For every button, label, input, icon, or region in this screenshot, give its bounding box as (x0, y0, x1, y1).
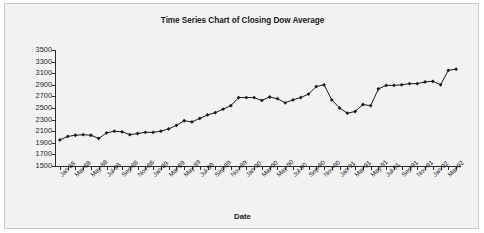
data-point-marker (120, 130, 124, 134)
series-polyline (60, 69, 456, 140)
data-point-marker (291, 98, 295, 102)
data-point-marker (221, 107, 225, 111)
data-point-marker (415, 82, 419, 86)
y-axis-tick (52, 73, 55, 74)
data-point-marker (58, 138, 62, 142)
data-point-marker (392, 83, 396, 87)
data-point-marker (369, 104, 373, 108)
data-point-marker (299, 96, 303, 100)
y-axis-tick-label: 3300 (25, 58, 52, 66)
y-axis-tick (52, 143, 55, 144)
y-axis-tick (52, 120, 55, 121)
data-point-marker (446, 68, 450, 72)
data-point-marker (423, 80, 427, 84)
y-axis-tick-label: 3500 (25, 46, 52, 54)
data-point-marker (384, 83, 388, 87)
data-point-marker (377, 87, 381, 91)
y-axis-tick (52, 50, 55, 51)
data-point-marker (128, 133, 132, 137)
x-axis-title: Date (5, 212, 480, 221)
y-axis-tick-label: 1900 (25, 139, 52, 147)
y-axis-tick (52, 131, 55, 132)
data-point-marker (190, 120, 194, 124)
y-axis-tick-label: 1700 (25, 150, 52, 158)
y-axis-tick-label: 1500 (25, 162, 52, 170)
series-markers (58, 67, 458, 142)
plot-area (56, 50, 460, 166)
data-point-marker (260, 99, 264, 103)
y-axis-tick-label: 3100 (25, 69, 52, 77)
data-point-marker (143, 130, 147, 134)
data-point-marker (213, 111, 217, 115)
data-point-marker (283, 101, 287, 105)
data-point-marker (112, 129, 116, 133)
y-axis-tick (52, 96, 55, 97)
data-point-marker (400, 83, 404, 87)
data-point-marker (167, 127, 171, 131)
data-point-marker (244, 96, 248, 100)
y-axis-tick (52, 154, 55, 155)
y-axis-tick (52, 85, 55, 86)
data-point-marker (408, 82, 412, 86)
y-axis-tick-labels: 3500330031002900270025002300210019001700… (25, 46, 52, 170)
chart-title: Time Series Chart of Closing Dow Average (5, 16, 480, 25)
data-point-marker (136, 132, 140, 136)
data-point-marker (151, 130, 155, 134)
y-axis-tick (52, 62, 55, 63)
y-axis-tick-label: 2500 (25, 104, 52, 112)
y-axis-tick-label: 2100 (25, 127, 52, 135)
data-point-marker (439, 83, 443, 87)
y-axis-tick-label: 2700 (25, 92, 52, 100)
data-point-marker (252, 96, 256, 100)
data-point-marker (322, 83, 326, 87)
data-point-marker (66, 135, 70, 139)
y-axis-tick-label: 2900 (25, 81, 52, 89)
y-axis-tick (52, 166, 55, 167)
data-point-marker (81, 133, 85, 137)
data-point-marker (206, 113, 210, 117)
y-axis-tick (52, 108, 55, 109)
data-point-marker (159, 129, 163, 133)
data-point-marker (276, 97, 280, 101)
data-point-marker (431, 79, 435, 83)
data-point-marker (268, 95, 272, 99)
data-point-marker (198, 117, 202, 121)
series-line-chart (56, 50, 460, 166)
data-point-marker (454, 67, 458, 71)
chart-frame: Time Series Chart of Closing Dow Average… (4, 3, 479, 229)
data-point-marker (89, 133, 93, 137)
data-point-marker (74, 133, 78, 137)
y-axis-tick-label: 2300 (25, 116, 52, 124)
